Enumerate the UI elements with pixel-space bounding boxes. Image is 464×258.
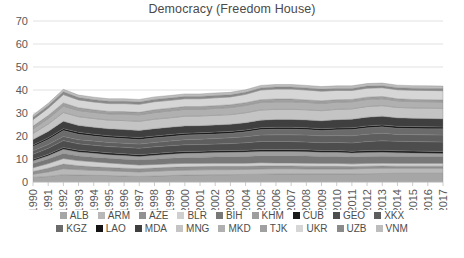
legend-label-xkx: XKX <box>384 210 404 221</box>
x-axis-tick-label: 1990 <box>27 189 39 210</box>
legend-swatch-arm <box>98 212 105 219</box>
legend-swatch-mda <box>135 225 142 232</box>
legend-label-vnm: VNM <box>386 223 408 234</box>
y-axis-tick-label: 50 <box>16 61 28 73</box>
legend-label-aze: AZE <box>149 210 168 221</box>
legend-item-alb[interactable]: ALB <box>60 210 89 221</box>
x-axis-tick-label: 2010 <box>331 189 343 210</box>
legend-label-khm: KHM <box>262 210 284 221</box>
legend-swatch-ukr <box>296 225 303 232</box>
x-axis-tick-label: 2005 <box>255 189 267 210</box>
legend-item-xkx[interactable]: XKX <box>374 210 404 221</box>
y-axis-tick-label: 0 <box>22 176 28 188</box>
legend-item-geo[interactable]: GEO <box>333 210 365 221</box>
chart-container: Democracy (Freedom House) 01020304050607… <box>0 0 464 258</box>
stacked-area-plot: 0102030405060701990199119921993199419951… <box>0 0 464 210</box>
x-axis-tick-label: 1996 <box>118 189 130 210</box>
legend-item-bih[interactable]: BIH <box>216 210 243 221</box>
y-axis-tick-label: 70 <box>16 15 28 27</box>
x-axis-tick-label: 2007 <box>285 189 297 210</box>
legend-swatch-cub <box>293 212 300 219</box>
x-axis-tick-label: 2002 <box>209 189 221 210</box>
x-axis-tick-label: 2004 <box>240 189 252 210</box>
x-axis-tick-label: 2011 <box>346 189 358 210</box>
x-axis-tick-label: 2014 <box>391 189 403 210</box>
legend-label-uzb: UZB <box>347 223 367 234</box>
legend-label-mkd: MKD <box>228 223 250 234</box>
legend-swatch-geo <box>333 212 340 219</box>
x-axis-tick-label: 2017 <box>437 189 449 210</box>
y-axis-tick-label: 10 <box>16 153 28 165</box>
legend-item-aze[interactable]: AZE <box>139 210 168 221</box>
legend-swatch-blr <box>177 212 184 219</box>
legend-label-mda: MDA <box>145 223 167 234</box>
x-axis-tick-label: 2012 <box>361 189 373 210</box>
legend-row-2: KGZLAOMDAMNGMKDTJKUKRUZBVNM <box>56 223 408 234</box>
legend-item-tjk[interactable]: TJK <box>260 223 288 234</box>
legend-label-geo: GEO <box>343 210 365 221</box>
legend-swatch-vnm <box>376 225 383 232</box>
legend-item-cub[interactable]: CUB <box>293 210 324 221</box>
x-axis-tick-label: 2001 <box>194 189 206 210</box>
legend-label-ukr: UKR <box>306 223 327 234</box>
y-axis-tick-label: 20 <box>16 130 28 142</box>
x-axis-tick-label: 1995 <box>103 189 115 210</box>
legend-row-1: ALBARMAZEBLRBIHKHMCUBGEOXKX <box>60 210 404 221</box>
legend-item-khm[interactable]: KHM <box>252 210 284 221</box>
x-axis-tick-label: 2013 <box>376 189 388 210</box>
legend-item-arm[interactable]: ARM <box>98 210 130 221</box>
legend-item-uzb[interactable]: UZB <box>337 223 367 234</box>
legend-label-kgz: KGZ <box>66 223 87 234</box>
x-axis-tick-label: 2008 <box>300 189 312 210</box>
legend-swatch-mkd <box>218 225 225 232</box>
legend-swatch-uzb <box>337 225 344 232</box>
legend-swatch-kgz <box>56 225 63 232</box>
x-axis-tick-label: 1999 <box>164 189 176 210</box>
legend-swatch-lao <box>96 225 103 232</box>
y-axis-tick-label: 40 <box>16 84 28 96</box>
x-axis-tick-label: 1997 <box>133 189 145 210</box>
legend-swatch-xkx <box>374 212 381 219</box>
legend-label-mng: MNG <box>186 223 209 234</box>
legend-item-kgz[interactable]: KGZ <box>56 223 87 234</box>
x-axis-tick-label: 2015 <box>407 189 419 210</box>
x-axis-tick-label: 2016 <box>422 189 434 210</box>
x-axis-tick-label: 1993 <box>73 189 85 210</box>
legend-label-blr: BLR <box>187 210 206 221</box>
legend-item-ukr[interactable]: UKR <box>296 223 327 234</box>
x-axis-tick-label: 2000 <box>179 189 191 210</box>
legend-swatch-tjk <box>260 225 267 232</box>
legend-swatch-bih <box>216 212 223 219</box>
legend-label-alb: ALB <box>70 210 89 221</box>
y-axis-tick-label: 30 <box>16 107 28 119</box>
x-axis-tick-label: 2009 <box>316 189 328 210</box>
legend-item-vnm[interactable]: VNM <box>376 223 408 234</box>
x-axis-tick-label: 2006 <box>270 189 282 210</box>
x-axis-tick-label: 2003 <box>224 189 236 210</box>
x-axis-tick-label: 1992 <box>57 189 69 210</box>
legend-item-blr[interactable]: BLR <box>177 210 206 221</box>
legend-label-cub: CUB <box>303 210 324 221</box>
y-axis-tick-label: 60 <box>16 38 28 50</box>
legend-swatch-alb <box>60 212 67 219</box>
legend-label-arm: ARM <box>108 210 130 221</box>
legend-item-lao[interactable]: LAO <box>96 223 126 234</box>
legend-item-mkd[interactable]: MKD <box>218 223 250 234</box>
legend-label-bih: BIH <box>226 210 243 221</box>
legend-item-mda[interactable]: MDA <box>135 223 167 234</box>
legend-label-lao: LAO <box>106 223 126 234</box>
x-axis-tick-label: 1998 <box>148 189 160 210</box>
chart-legend: ALBARMAZEBLRBIHKHMCUBGEOXKXKGZLAOMDAMNGM… <box>0 210 464 234</box>
legend-label-tjk: TJK <box>270 223 288 234</box>
x-axis-tick-label: 1994 <box>88 189 100 210</box>
x-axis-tick-label: 1991 <box>42 189 54 210</box>
legend-item-mng[interactable]: MNG <box>176 223 209 234</box>
legend-swatch-aze <box>139 212 146 219</box>
legend-swatch-khm <box>252 212 259 219</box>
legend-swatch-mng <box>176 225 183 232</box>
